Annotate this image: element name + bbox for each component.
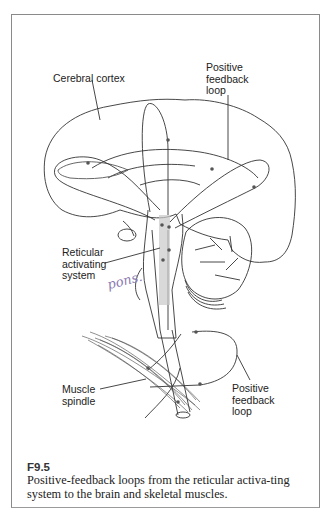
label-positive-feedback-loop-bottom: Positive feedback loop (232, 383, 275, 418)
label-positive-feedback-loop-top: Positive feedback loop (206, 62, 249, 97)
figure-number: F9.5 (27, 461, 50, 473)
label-muscle-spindle: Muscle spindle (62, 384, 95, 407)
figure-caption: Positive-feedback loops from the reticul… (27, 474, 317, 501)
label-cerebral-cortex: Cerebral cortex (53, 73, 125, 85)
muscle (82, 332, 200, 412)
brain-diagram (0, 0, 332, 516)
label-reticular-activating-system: Reticular activating system (62, 247, 106, 282)
